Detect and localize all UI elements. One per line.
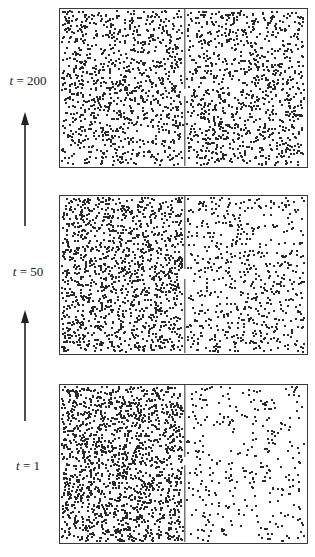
- particle-scatter: [60, 385, 309, 545]
- particle-box-t50: [59, 195, 308, 355]
- time-label-t50: t = 50: [0, 264, 56, 280]
- particle-scatter: [60, 196, 309, 356]
- particle-box-t200: [59, 8, 308, 168]
- time-value: = 50: [16, 264, 43, 279]
- time-arrow-up-icon: [18, 112, 32, 226]
- time-arrow-up-icon: [18, 310, 32, 421]
- time-label-t200: t = 200: [0, 73, 56, 89]
- particle-box-t1: [59, 384, 308, 544]
- time-value: = 200: [13, 73, 46, 88]
- time-label-t1: t = 1: [0, 458, 56, 474]
- time-value: = 1: [20, 458, 40, 473]
- particle-scatter: [60, 9, 309, 169]
